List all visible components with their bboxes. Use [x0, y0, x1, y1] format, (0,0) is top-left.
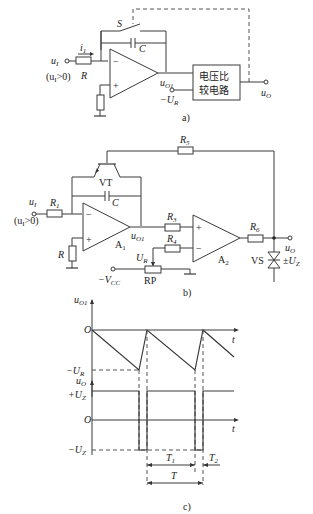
output-label: uO [285, 242, 295, 255]
potentiometer-rp [145, 266, 161, 273]
input-label: uI [29, 196, 37, 209]
sawtooth-waveform [92, 330, 234, 370]
current-arrow-icon [90, 52, 94, 56]
bottom-time-arrow-icon [234, 418, 239, 422]
figure-c: uO1 O t −UR uO +UZ O t −UZ T1 T2 [66, 294, 239, 513]
r5-left-wire [107, 151, 178, 163]
zener-label: VS [251, 255, 264, 266]
a1-minus: − [86, 209, 92, 220]
bottom-plus-label: +UZ [68, 389, 86, 402]
comparator-label-line1: 电压比 [199, 70, 229, 82]
rp-ground-wire [161, 269, 190, 274]
caption-b: b) [183, 287, 191, 299]
transistor-label: VT [99, 177, 112, 188]
caption-c: c) [183, 501, 191, 513]
r6-label: R6 [249, 221, 260, 234]
top-time-arrow-icon [234, 328, 239, 332]
switch-blade [120, 24, 140, 31]
t1-arrow-right-icon [190, 463, 195, 467]
resistor-r1 [47, 210, 62, 217]
emitter-arrow-icon [95, 168, 99, 173]
opamp-plus: + [113, 80, 119, 91]
zener-diode-1-icon [268, 252, 280, 260]
sawtooth-generator-diagram: S C uI (uI>0) R i1 − + uO1 −UR [0, 0, 313, 514]
r3-label: R3 [166, 211, 177, 224]
reference-label: −UR [160, 94, 179, 107]
input-label: uI [51, 55, 59, 68]
bottom-t-label: t [232, 423, 235, 434]
switch-left-wire [101, 31, 120, 50]
resistor-r [76, 57, 91, 64]
bottom-origin: O [84, 414, 91, 425]
a2-plus: + [196, 222, 202, 233]
output-terminal [264, 80, 268, 84]
ref-terminal [170, 88, 174, 92]
caption-a: a) [182, 112, 190, 124]
input-condition: (uI>0) [46, 71, 71, 84]
output-terminal [288, 236, 292, 240]
opamp-minus: − [113, 56, 119, 67]
a2-label: A2 [218, 254, 229, 267]
t2-arrow-icon [203, 463, 208, 467]
resistor-r3 [165, 224, 180, 231]
output-label: uO [261, 87, 271, 100]
t1-label: T1 [166, 452, 175, 465]
transistor-collector [114, 164, 120, 177]
uo1-label: uO1 [131, 230, 145, 243]
resistor-label: R [80, 70, 87, 81]
a1-label: A1 [115, 239, 126, 252]
r5-label: R5 [179, 134, 190, 147]
capacitor-label: C [139, 43, 146, 54]
vcc-terminal [111, 267, 115, 271]
bottom-minus-label: −UZ [68, 444, 86, 457]
resistor-r6 [248, 235, 263, 242]
noninv-wire [100, 85, 110, 95]
top-origin: O [84, 324, 91, 335]
zener-value: ±UZ [283, 255, 300, 268]
period-arrow-left-icon [147, 481, 152, 485]
zener-diode-2-icon [268, 260, 280, 268]
uo1-axis-label: uO1 [74, 294, 88, 307]
r-label: R [57, 249, 64, 260]
ground-resistor [97, 95, 104, 110]
resistor-r5 [178, 147, 193, 154]
t2-label: T2 [209, 452, 219, 465]
comparator-label-line2: 较电路 [199, 84, 229, 96]
ur-label: UR [136, 252, 148, 265]
period-label: T [171, 470, 178, 481]
t1-arrow-left-icon [147, 463, 152, 467]
a1-plus: + [86, 234, 92, 245]
top-t-label: t [232, 334, 235, 345]
figure-a: S C uI (uI>0) R i1 − + uO1 −UR [46, 9, 271, 124]
resistor-r4 [165, 245, 180, 252]
uo-axis-arrow-icon [90, 380, 94, 385]
current-label: i1 [80, 42, 86, 55]
vt-right-wire [120, 177, 141, 226]
input-condition: (uI>0) [14, 215, 39, 228]
capacitor-label: C [112, 197, 119, 208]
r4-left-wire [153, 248, 165, 264]
period-arrow-right-icon [198, 481, 203, 485]
a1-noninv-wire [72, 238, 83, 246]
a2-minus: − [196, 243, 202, 254]
resistor-r [69, 246, 76, 261]
rp-label: RP [144, 275, 157, 286]
uo1-axis-arrow-icon [90, 299, 94, 304]
r1-label: R1 [49, 197, 60, 210]
figure-b: R5 VT C uI (uI>0) R1 − + A1 R [14, 134, 300, 299]
r4-label: R4 [166, 233, 177, 246]
vcc-label: −VCC [98, 274, 121, 287]
input-terminal [65, 59, 69, 63]
switch-label: S [117, 18, 122, 29]
